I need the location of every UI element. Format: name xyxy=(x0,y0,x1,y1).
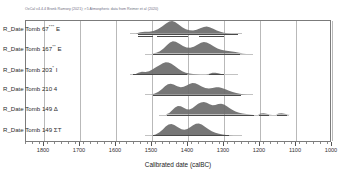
axis-minor-tick xyxy=(111,142,112,144)
density-container xyxy=(26,21,332,34)
axis-minor-tick xyxy=(147,142,148,144)
axis-minor-tick xyxy=(263,142,264,144)
distribution-row: R_Date Tomb 149 Δ xyxy=(26,102,330,122)
hpd-range-bar xyxy=(167,115,253,116)
axis-minor-tick xyxy=(155,142,156,144)
axis-minor-tick xyxy=(54,142,55,144)
hpd-range-bar xyxy=(138,36,154,37)
axis-minor-tick xyxy=(68,142,69,144)
axis-minor-tick xyxy=(241,142,242,144)
axis-tick-label: 1800 xyxy=(37,147,49,153)
axis-minor-tick xyxy=(277,142,278,144)
axis-minor-tick xyxy=(205,142,206,144)
hpd-range-bar xyxy=(209,74,224,75)
density-curve xyxy=(26,21,332,34)
axis-minor-tick xyxy=(97,142,98,144)
axis-minor-tick xyxy=(255,142,256,144)
axis-minor-tick xyxy=(212,142,213,144)
x-axis-title: Calibrated date (calBC) xyxy=(25,161,331,168)
density-container xyxy=(26,41,332,54)
axis-tick-label: 1500 xyxy=(145,147,157,153)
axis-minor-tick xyxy=(183,142,184,144)
axis-minor-tick xyxy=(119,142,120,144)
axis-tick-label: 1000 xyxy=(325,147,337,153)
distribution-row: R_Date Tomb 67*** E xyxy=(26,21,330,41)
density-curve xyxy=(26,41,332,54)
hpd-range-bar xyxy=(199,36,224,37)
distribution-row: R_Date Tomb 203* I xyxy=(26,62,330,82)
distribution-row: R_Date Tomb 210 4 xyxy=(26,82,330,102)
axis-minor-tick xyxy=(320,142,321,144)
axis-minor-tick xyxy=(83,142,84,144)
distribution-row: R_Date Tomb 149 ΣT xyxy=(26,123,330,143)
axis-minor-tick xyxy=(248,142,249,144)
axis-minor-tick xyxy=(227,142,228,144)
gridline-1000 xyxy=(332,21,333,141)
axis-minor-tick xyxy=(299,142,300,144)
axis-tick-1400 xyxy=(187,142,188,146)
axis-tick-1000 xyxy=(331,142,332,146)
axis-minor-tick xyxy=(198,142,199,144)
axis-tick-label: 1400 xyxy=(181,147,193,153)
axis-tick-1800 xyxy=(43,142,44,146)
axis-minor-tick xyxy=(32,142,33,144)
density-curve xyxy=(26,82,332,95)
axis-tick-label: 1600 xyxy=(109,147,121,153)
axis-tick-label: 1100 xyxy=(289,147,301,153)
density-curve xyxy=(26,123,332,136)
axis-minor-tick xyxy=(75,142,76,144)
axis-tick-1300 xyxy=(223,142,224,146)
axis-tick-label: 1700 xyxy=(73,147,85,153)
axis-tick-label: 1300 xyxy=(217,147,229,153)
axis-minor-tick xyxy=(234,142,235,144)
axis-minor-tick xyxy=(291,142,292,144)
density-curve xyxy=(26,102,332,115)
axis-minor-tick xyxy=(306,142,307,144)
density-container xyxy=(26,82,332,95)
density-container xyxy=(26,102,332,115)
hpd-range-bar xyxy=(133,74,186,75)
axis-minor-tick xyxy=(90,142,91,144)
axis-tick-1600 xyxy=(115,142,116,146)
axis-minor-tick xyxy=(162,142,163,144)
hpd-range-bar xyxy=(153,95,242,96)
hpd-range-bar xyxy=(153,54,239,55)
oxcal-citation-header: OxCal v4.4.4 Bronk Ramsey (2021); r:5 At… xyxy=(25,7,158,11)
hpd-range-bar xyxy=(157,36,188,37)
axis-minor-tick xyxy=(169,142,170,144)
axis-minor-tick xyxy=(140,142,141,144)
axis-minor-tick xyxy=(191,142,192,144)
axis-minor-tick xyxy=(39,142,40,144)
axis-tick-1500 xyxy=(151,142,152,146)
distribution-row: R_Date Tomb 167** E xyxy=(26,41,330,61)
axis-minor-tick xyxy=(126,142,127,144)
plot-area: R_Date Tomb 67*** ER_Date Tomb 167** ER_… xyxy=(25,20,331,142)
hpd-range-bar xyxy=(153,135,229,136)
x-axis: Calibrated date (calBC) 1800170016001500… xyxy=(25,142,331,180)
hpd-range-bar xyxy=(138,34,238,35)
axis-tick-1100 xyxy=(295,142,296,146)
axis-minor-tick xyxy=(47,142,48,144)
axis-minor-tick xyxy=(61,142,62,144)
axis-tick-label: 1200 xyxy=(253,147,265,153)
axis-minor-tick xyxy=(104,142,105,144)
axis-minor-tick xyxy=(270,142,271,144)
axis-minor-tick xyxy=(133,142,134,144)
hpd-range-bar xyxy=(277,115,287,116)
axis-minor-tick xyxy=(327,142,328,144)
density-container xyxy=(26,123,332,136)
density-curve xyxy=(26,62,332,75)
hpd-range-bar xyxy=(259,115,269,116)
axis-minor-tick xyxy=(284,142,285,144)
axis-tick-1700 xyxy=(79,142,80,146)
axis-minor-tick xyxy=(176,142,177,144)
axis-tick-1200 xyxy=(259,142,260,146)
axis-minor-tick xyxy=(219,142,220,144)
axis-minor-tick xyxy=(313,142,314,144)
density-container xyxy=(26,62,332,75)
axis-minor-tick xyxy=(25,142,26,144)
oxcal-plot-figure: OxCal v4.4.4 Bronk Ramsey (2021); r:5 At… xyxy=(0,0,344,180)
